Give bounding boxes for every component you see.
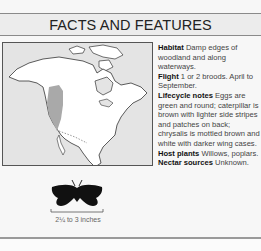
butterfly-silhouette-icon [48,178,106,216]
section-header: FACTS AND FEATURES [0,14,261,35]
wingspan-label: 2¼ to 3 inches [50,216,106,223]
header-rule [0,35,261,36]
page-title: FACTS AND FEATURES [49,17,212,33]
north-america-map-icon [3,43,153,166]
fact-habitat: Habitat Damp edges of woodland and along… [158,43,260,72]
range-map [2,42,153,166]
fact-lifecycle: Lifecycle notes Eggs are green and round… [158,91,260,149]
fact-flight: Flight 1 or 2 broods. April to September… [158,72,260,91]
facts-panel: Habitat Damp edges of woodland and along… [158,43,260,168]
fact-host-plants: Host plants Willows, poplars. [158,149,260,159]
wingspan-indicator [48,178,106,220]
page-margin [0,239,261,251]
fact-nectar-sources: Nectar sources Unknown. [158,158,260,168]
